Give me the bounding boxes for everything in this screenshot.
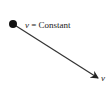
velocity-vector-arrow (13, 24, 98, 78)
constant-velocity-label: v = Constant (25, 20, 71, 30)
velocity-label: v (101, 73, 105, 83)
particle-dot (9, 20, 17, 28)
velocity-diagram: v = Constant v (0, 0, 112, 104)
